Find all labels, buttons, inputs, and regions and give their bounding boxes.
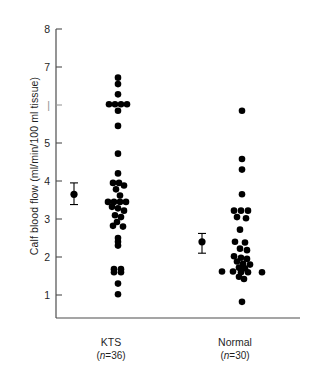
data-point [115,280,122,287]
data-points-layer [105,74,266,305]
data-point [112,212,119,219]
group-name-kts: KTS [101,336,121,348]
data-point [117,199,124,206]
data-point [118,269,125,276]
data-point [239,156,246,163]
error-bar-kts [70,183,78,205]
data-point [237,226,244,233]
data-point [115,242,122,249]
y-axis-tick-label-2: 2 [44,251,50,263]
data-point [115,291,122,298]
data-point [239,107,246,114]
data-point [245,269,252,276]
data-point [231,207,238,214]
mean-marker [198,238,205,245]
data-point [118,101,125,108]
data-point [112,101,119,108]
y-axis-tick-label-5: 5 [44,137,50,149]
data-point [120,223,127,230]
error-bar-layer [70,183,206,253]
figure-container: Calf blood flow (ml/min/100 ml tissue) 1… [0,0,314,372]
data-point [106,101,113,108]
data-point [109,204,116,211]
group-count-kts: (n=36) [66,349,156,363]
data-point [239,191,246,198]
data-point [239,299,246,306]
data-point [244,247,251,254]
x-axis-group-label-normal: Normal (n=30) [190,335,280,363]
data-point [242,239,249,246]
data-point [123,199,130,206]
group-count-normal: (n=30) [190,349,280,363]
data-point [115,170,122,177]
data-point [111,269,118,276]
data-point [115,205,122,212]
group-count-value-kts: =36 [105,350,122,361]
data-point [121,182,128,189]
data-point [238,207,245,214]
data-point [115,91,122,98]
y-axis-tick-label-1: 1 [44,289,50,301]
y-axis-tick-label-4: 4 [44,175,50,187]
group-name-normal: Normal [218,336,252,348]
data-point [110,180,117,187]
data-point [117,192,124,199]
data-point [245,207,252,214]
data-point [113,186,120,193]
data-point [219,268,226,275]
scatter-plot: 12345|78 [0,0,314,372]
y-axis-tick-label-3: 3 [44,213,50,225]
mean-marker [70,191,77,198]
x-axis-group-label-kts: KTS (n=36) [66,335,156,363]
data-point [232,239,239,246]
data-point [259,269,266,276]
data-point [243,215,250,222]
y-axis-tick-label-6: | [47,99,50,111]
y-axis-tick-label-8: 8 [44,23,50,35]
y-axis-tick-label-7: 7 [44,61,50,73]
data-point [241,276,248,283]
group-count-value-normal: =30 [229,350,246,361]
data-point [115,81,122,88]
data-point [237,245,244,252]
data-point [115,123,122,130]
data-point [234,214,241,221]
data-point [124,101,131,108]
data-point [121,207,128,214]
data-point [115,74,122,81]
error-bar-normal [198,233,206,253]
data-point [230,268,237,275]
data-point [239,166,246,173]
data-point [234,258,241,265]
data-point [115,107,122,114]
data-point [110,223,117,230]
data-point [115,150,122,157]
